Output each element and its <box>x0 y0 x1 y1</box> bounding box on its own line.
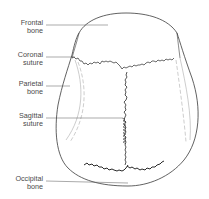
lambdoid-suture-right <box>127 161 164 170</box>
lambdoid-suture-left <box>84 163 128 171</box>
frontal-edge-left <box>72 33 79 58</box>
skull-top-view-diagram: Frontal bone Coronal suture Parietal bon… <box>0 0 209 199</box>
coronal-suture-line <box>72 57 174 69</box>
label-sagittal-suture: Sagittal suture <box>1 112 43 128</box>
temporal-line-left-outer <box>66 60 81 140</box>
sagittal-suture-line <box>124 72 127 165</box>
label-occipital-bone: Occipital bone <box>1 175 43 191</box>
label-parietal-bone: Parietal bone <box>1 80 43 96</box>
label-coronal-suture: Coronal suture <box>1 51 43 67</box>
label-frontal-bone: Frontal bone <box>1 19 43 35</box>
temporal-line-right-inner <box>176 60 186 142</box>
leader-occipital <box>46 181 128 183</box>
